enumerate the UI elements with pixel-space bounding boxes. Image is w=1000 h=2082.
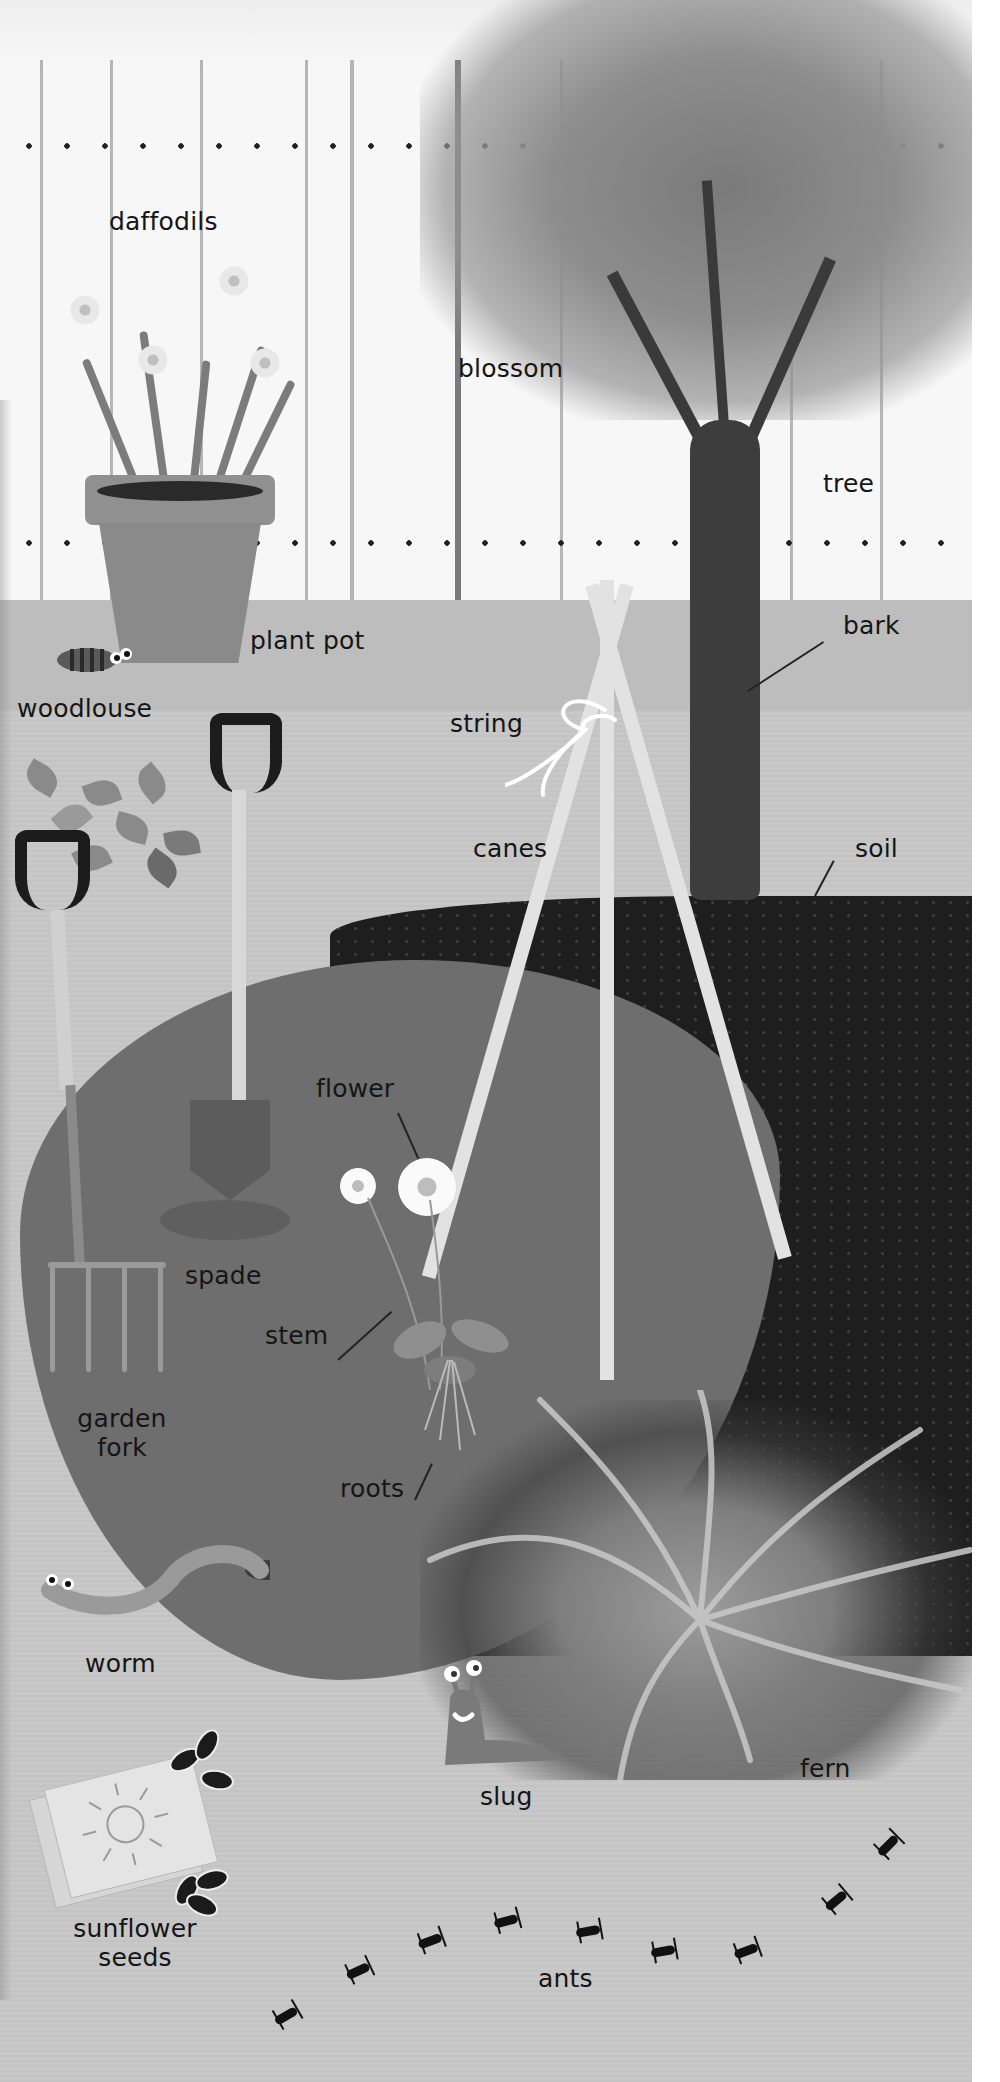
- label-tree: tree: [823, 470, 874, 499]
- fence-plank: [40, 60, 43, 600]
- leaf: [131, 762, 173, 805]
- fork-handle: [15, 830, 90, 910]
- spade-hole: [160, 1200, 290, 1240]
- label-roots: roots: [340, 1475, 404, 1504]
- tree-trunk-icon: [690, 420, 760, 900]
- fork-tine: [122, 1262, 127, 1372]
- label-blossom: blossom: [458, 355, 563, 384]
- label-bark: bark: [843, 612, 900, 641]
- label-canes: canes: [473, 835, 547, 864]
- fork-tine: [86, 1262, 91, 1372]
- label-woodlouse: woodlouse: [17, 695, 152, 724]
- daffodil-bloom: [138, 345, 168, 375]
- label-string: string: [450, 710, 523, 739]
- fork-tine: [158, 1262, 163, 1372]
- leaf: [21, 758, 63, 798]
- pot-soil: [97, 481, 263, 501]
- leaf: [163, 827, 201, 859]
- label-ants: ants: [538, 1965, 593, 1994]
- leaf: [112, 811, 152, 845]
- fork-crossbar: [48, 1262, 166, 1268]
- daffodil-bloom: [215, 262, 253, 300]
- label-sunflower-seeds-line2: seeds: [60, 1944, 210, 1973]
- string-bow-icon: [505, 690, 625, 800]
- slug-icon: [430, 1660, 570, 1770]
- spade-handle: [210, 713, 282, 793]
- label-soil: soil: [855, 835, 898, 864]
- label-stem: stem: [265, 1322, 328, 1351]
- pot-icon: [85, 475, 275, 665]
- label-spade: spade: [185, 1262, 261, 1291]
- fence-plank: [350, 60, 354, 600]
- label-slug: slug: [480, 1783, 533, 1812]
- label-flower: flower: [316, 1075, 394, 1104]
- label-garden-fork-line2: fork: [72, 1434, 172, 1463]
- label-daffodils: daffodils: [109, 208, 218, 237]
- label-garden-fork: garden fork: [72, 1405, 172, 1463]
- label-garden-fork-line1: garden: [72, 1405, 172, 1434]
- pot-rim: [85, 475, 275, 525]
- fork-tines: [48, 1262, 166, 1372]
- label-sunflower-seeds: sunflower seeds: [60, 1915, 210, 1973]
- fork-tine: [50, 1262, 55, 1372]
- daffodil-bloom: [250, 348, 280, 378]
- daffodil-bloom: [70, 295, 100, 325]
- garden-scene: daffodils blossom tree plant pot bark wo…: [0, 0, 972, 2082]
- label-worm: worm: [85, 1650, 156, 1679]
- label-fern: fern: [800, 1755, 851, 1784]
- label-plant-pot: plant pot: [250, 627, 365, 656]
- spade-shaft: [232, 790, 246, 1100]
- page-shadow: [0, 400, 12, 2000]
- label-sunflower-seeds-line1: sunflower: [60, 1915, 210, 1944]
- leaf: [82, 775, 123, 811]
- woodlouse-icon: [52, 640, 132, 680]
- worm-icon: [40, 1540, 270, 1620]
- fence-plank: [305, 60, 308, 600]
